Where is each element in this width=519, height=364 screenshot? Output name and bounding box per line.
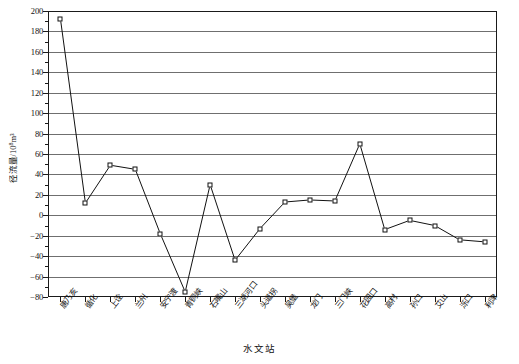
- gridline: [49, 31, 496, 32]
- y-tick-label: 100: [31, 109, 43, 118]
- y-tick-label: 60: [35, 150, 43, 159]
- y-tick-label: 200: [31, 7, 43, 16]
- plot-area: [48, 11, 497, 297]
- y-tick-label: −40: [30, 252, 43, 261]
- y-tick-mark: [43, 297, 48, 298]
- y-tick-label: −60: [30, 272, 43, 281]
- y-tick-label: 140: [31, 68, 43, 77]
- gridline: [49, 215, 496, 216]
- y-tick-label: 160: [31, 48, 43, 57]
- gridline: [49, 195, 496, 196]
- y-tick-label: 120: [31, 88, 43, 97]
- gridline: [49, 52, 496, 53]
- x-axis-title: 水文站: [0, 341, 519, 355]
- gridline: [49, 154, 496, 155]
- gridline: [49, 93, 496, 94]
- y-axis-title: 径流量/108m³: [6, 115, 19, 201]
- gridline: [49, 256, 496, 257]
- gridline: [49, 134, 496, 135]
- runoff-line-chart: 径流量/108m³ 200180160140120100806040200−20…: [0, 0, 519, 364]
- gridline: [49, 72, 496, 73]
- y-tick-label: 180: [31, 27, 43, 36]
- y-tick-label: 80: [35, 129, 43, 138]
- y-tick-label: 40: [35, 170, 43, 179]
- gridline: [49, 277, 496, 278]
- y-tick-label: −20: [30, 231, 43, 240]
- y-tick-label: 20: [35, 191, 43, 200]
- gridline: [49, 113, 496, 114]
- y-axis: 径流量/108m³ 200180160140120100806040200−20…: [0, 0, 48, 364]
- gridline: [49, 174, 496, 175]
- gridline: [49, 236, 496, 237]
- y-tick-label: −80: [30, 293, 43, 302]
- y-tick-label: 0: [39, 211, 43, 220]
